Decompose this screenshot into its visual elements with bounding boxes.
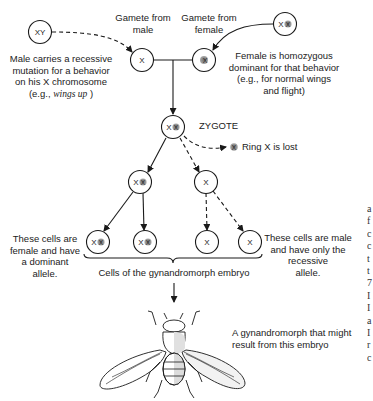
male-cell-2-node: X	[239, 231, 262, 254]
embryo-brace	[84, 254, 262, 263]
gynandromorph-fly-illustration	[100, 311, 245, 398]
svg-text:X: X	[247, 238, 253, 247]
female-cell-1-node: X X	[87, 231, 110, 254]
ring-x-lost-node: X	[230, 143, 238, 151]
ring-lost-label: Ring X is lost	[242, 141, 297, 153]
svg-text:X: X	[166, 123, 172, 132]
gamete-male-label: Gamete from male	[112, 12, 174, 35]
female-cell-line-node: X X	[129, 171, 152, 194]
svg-text:X: X	[141, 179, 146, 186]
male-description: Male carries a recessive mutation for a …	[0, 53, 122, 100]
svg-text:X: X	[286, 21, 291, 28]
svg-text:X: X	[146, 239, 151, 246]
zygote-node: X X	[162, 116, 185, 139]
svg-text:X: X	[138, 238, 144, 247]
male-div-left	[206, 193, 207, 230]
female-gamete-node: X	[193, 49, 216, 72]
female-description: Female is homozygous dominant for that b…	[226, 50, 342, 96]
svg-text:X: X	[99, 239, 104, 246]
female-div-left	[104, 192, 133, 231]
female-cells-description: These cells are female and have a domina…	[8, 233, 82, 279]
svg-text:X: X	[203, 178, 209, 187]
female-div-right	[143, 193, 144, 230]
male-div-right	[213, 191, 243, 231]
svg-text:XY: XY	[35, 28, 46, 37]
male-cell-line-node: X	[195, 171, 218, 194]
female-cell-2-node: X X	[134, 231, 157, 254]
zygote-to-female-line	[148, 138, 166, 172]
svg-text:X: X	[174, 124, 179, 131]
svg-text:X: X	[204, 238, 210, 247]
svg-text:X: X	[139, 56, 145, 65]
svg-text:X: X	[133, 178, 139, 187]
result-description: A gynandromorph that might result from t…	[232, 327, 351, 350]
svg-text:X: X	[232, 144, 237, 151]
male-cell-1-node: X	[196, 231, 219, 254]
female-parent-node: X X	[274, 13, 297, 36]
zygote-to-male-line	[180, 138, 199, 172]
zygote-label: ZYGOTE	[199, 120, 238, 132]
svg-text:X: X	[278, 20, 284, 29]
svg-text:X: X	[91, 238, 97, 247]
male-to-gamete-arrow	[52, 32, 132, 52]
male-cells-description: These cells are male and have only the r…	[264, 232, 352, 278]
male-gamete-node: X	[131, 49, 154, 72]
clipped-page-text-fragment: a f c c t t 7 I I a I r c	[367, 203, 373, 364]
male-parent-node: XY	[29, 21, 52, 44]
gamete-female-label: Gamete from female	[178, 12, 240, 35]
svg-text:X: X	[203, 57, 208, 64]
embryo-label: Cells of the gynandromorph embryo	[96, 267, 252, 279]
ring-lost-arrow	[184, 136, 226, 148]
